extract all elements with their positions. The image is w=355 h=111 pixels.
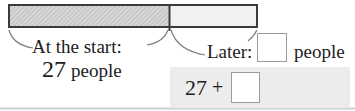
start-value: 27	[42, 57, 66, 81]
leader-arc-later-right	[248, 30, 257, 41]
start-value-line: 27 people	[42, 57, 122, 81]
sum-answer-box[interactable]	[231, 72, 260, 103]
expression-panel: 27 +	[170, 67, 350, 108]
bar-start-segment	[8, 4, 170, 28]
bar-later-segment	[170, 4, 258, 28]
later-label: Later:	[207, 42, 252, 61]
start-label: At the start:	[32, 37, 122, 56]
later-answer-box[interactable]	[257, 33, 287, 62]
expression-operand: 27	[185, 75, 207, 101]
leader-arc-start-right	[147, 30, 168, 45]
leader-arc-start-left	[9, 30, 33, 48]
plus-operator: +	[212, 76, 223, 99]
tape-diagram: At the start: 27 people Later: people 27…	[0, 0, 355, 111]
leader-arc-later-left	[171, 30, 205, 55]
start-unit: people	[71, 61, 122, 80]
later-unit: people	[294, 42, 345, 61]
